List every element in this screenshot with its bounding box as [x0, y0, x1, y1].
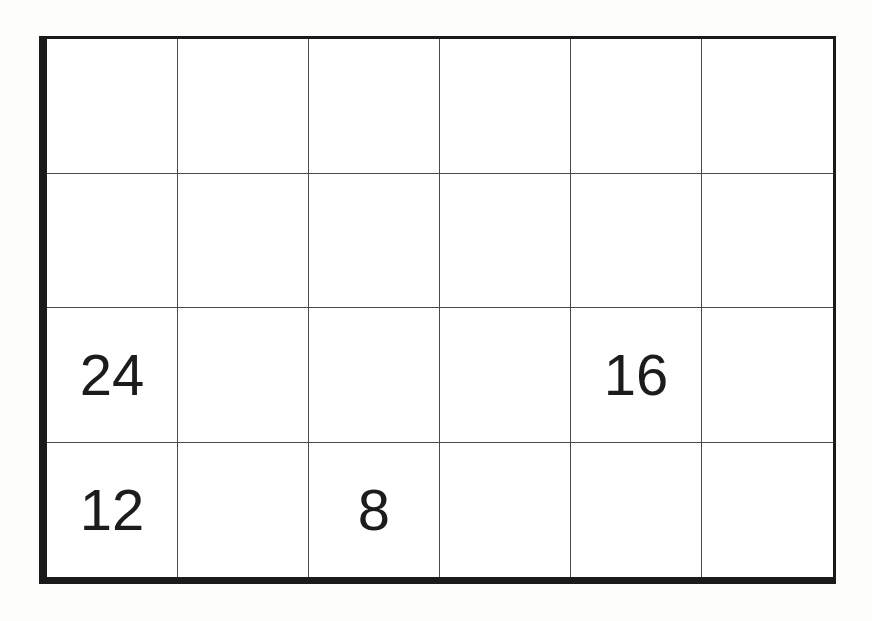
grid-cell [702, 308, 833, 443]
grid-cell [178, 443, 309, 578]
worksheet-table: 24 16 12 8 [39, 36, 836, 584]
grid-cell [309, 39, 440, 174]
grid-cell [571, 39, 702, 174]
grid-cell [178, 39, 309, 174]
grid-cell-value-12: 12 [47, 443, 178, 578]
grid-cell [309, 308, 440, 443]
worksheet-page: 24 16 12 8 [0, 0, 872, 621]
grid-cell [440, 39, 571, 174]
grid-cell [440, 443, 571, 578]
grid-cell [440, 174, 571, 309]
grid-cell [47, 39, 178, 174]
grid-cell [571, 174, 702, 309]
grid-cell-value-24: 24 [47, 308, 178, 443]
grid-cell [702, 39, 833, 174]
grid-cell-value-8: 8 [309, 443, 440, 578]
grid-cell [440, 308, 571, 443]
worksheet-grid: 24 16 12 8 [47, 39, 833, 577]
grid-cell [309, 174, 440, 309]
grid-cell [47, 174, 178, 309]
grid-cell [178, 174, 309, 309]
grid-cell [571, 443, 702, 578]
grid-cell [178, 308, 309, 443]
grid-cell [702, 443, 833, 578]
grid-cell-value-16: 16 [571, 308, 702, 443]
grid-cell [702, 174, 833, 309]
